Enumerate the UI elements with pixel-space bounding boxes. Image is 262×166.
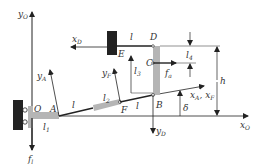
svg-text:l: l	[136, 101, 139, 111]
xO-axis: xO	[32, 116, 250, 131]
svg-text:h: h	[220, 76, 226, 86]
point-A: A	[49, 104, 57, 114]
mechanism-diagram: yO xO l1 O A fl yA l l2 F yF	[0, 0, 262, 166]
joint-D	[152, 45, 155, 48]
link-l2: l2	[93, 93, 121, 111]
svg-text:fl: fl	[27, 154, 33, 165]
point-F: F	[120, 105, 128, 115]
svg-text:δ: δ	[183, 103, 188, 113]
svg-text:yF: yF	[101, 68, 112, 79]
point-C: C	[146, 58, 153, 68]
svg-text:xO: xO	[240, 120, 250, 131]
point-D: D	[149, 32, 157, 42]
link-l1: l1	[33, 112, 59, 133]
top-wall-support	[107, 31, 117, 55]
link-CB	[153, 46, 160, 95]
svg-text:l2: l2	[103, 93, 110, 104]
point-O: O	[34, 104, 42, 114]
svg-text:yD: yD	[155, 126, 166, 137]
svg-text:l: l	[130, 32, 133, 42]
svg-text:xD: xD	[72, 34, 82, 45]
svg-text:l: l	[72, 100, 75, 110]
angle-delta: δ	[180, 91, 188, 116]
svg-text:l4: l4	[186, 50, 193, 61]
dimension-h: h	[217, 47, 226, 115]
svg-text:yO: yO	[17, 9, 28, 20]
svg-text:fa: fa	[164, 68, 172, 79]
link-AF: l	[59, 100, 93, 116]
xA-xF-axis: xA, xF	[153, 86, 215, 101]
svg-text:l1: l1	[43, 122, 50, 133]
dimension-l4: l4	[160, 32, 220, 77]
link-ED: l	[112, 32, 153, 46]
svg-text:l3: l3	[134, 66, 141, 77]
svg-text:yA: yA	[36, 71, 47, 82]
svg-text:xA, xF: xA, xF	[190, 90, 215, 101]
point-B: B	[155, 100, 163, 110]
point-E: E	[117, 49, 125, 59]
left-wall-support	[13, 100, 33, 130]
xD-axis: xD	[71, 34, 107, 47]
